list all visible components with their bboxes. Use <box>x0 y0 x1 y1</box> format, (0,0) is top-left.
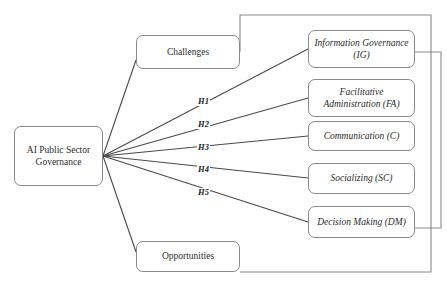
node-facilitative-administration[interactable]: Facilitative Administration (FA) <box>308 79 415 117</box>
node-opportunities-label: Opportunities <box>158 250 218 262</box>
node-communication[interactable]: Communication (C) <box>308 121 415 151</box>
hypothesis-label-h2: H2 <box>197 120 210 129</box>
node-decision-making-label: Decision Making (DM) <box>313 216 410 228</box>
node-opportunities[interactable]: Opportunities <box>136 241 240 272</box>
node-information-governance-label: Information Governance (IG) <box>309 37 414 61</box>
node-challenges-label: Challenges <box>163 46 213 58</box>
hypothesis-label-h3: H3 <box>197 143 210 152</box>
node-communication-label: Communication (C) <box>320 130 404 142</box>
connector-central-to-opportunities <box>103 156 136 252</box>
routing-ig-to-dm-inner-loop <box>415 52 441 228</box>
node-facilitative-administration-label: Facilitative Administration (FA) <box>309 86 414 110</box>
node-central[interactable]: AI Public Sector Governance <box>14 126 103 186</box>
node-socializing-label: Socializing (SC) <box>326 172 396 184</box>
node-socializing[interactable]: Socializing (SC) <box>308 163 415 194</box>
hypothesis-label-h4: H4 <box>197 165 210 174</box>
node-decision-making[interactable]: Decision Making (DM) <box>308 206 415 238</box>
node-challenges[interactable]: Challenges <box>136 35 240 69</box>
hypothesis-label-h5: H5 <box>197 188 210 197</box>
diagram-canvas: AI Public Sector Governance Challenges O… <box>0 0 447 285</box>
node-central-label: AI Public Sector Governance <box>15 144 102 168</box>
node-information-governance[interactable]: Information Governance (IG) <box>308 30 415 68</box>
hypothesis-label-h1: H1 <box>197 97 210 106</box>
